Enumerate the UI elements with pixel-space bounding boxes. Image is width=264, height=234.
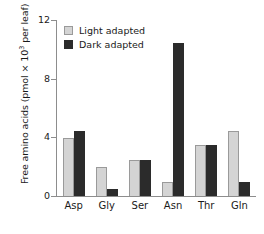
bar-chart: Free amino acids (pmol × 103 per leaf) 0… (0, 0, 264, 234)
x-axis-label-thr: Thr (191, 200, 221, 211)
y-axis-title: Free amino acids (pmol × 103 per leaf) (18, 4, 30, 184)
bar-asn-light (162, 182, 173, 196)
x-axis-label-gln: Gln (224, 200, 254, 211)
x-axis-label-gly: Gly (92, 200, 122, 211)
y-axis-title-prefix: Free amino acids (pmol × 10 (19, 50, 30, 184)
legend-swatch-light (64, 26, 73, 35)
bar-asn-dark (173, 43, 184, 196)
bar-asp-light (63, 138, 74, 196)
y-axis-tick-label: 4 (24, 131, 50, 142)
bar-gln-light (228, 131, 239, 196)
legend: Light adaptedDark adapted (64, 24, 145, 52)
bar-gly-dark (107, 189, 118, 196)
bar-gly-light (96, 167, 107, 196)
bar-gln-dark (239, 182, 250, 196)
y-axis-tick (51, 20, 56, 21)
x-axis-line (56, 196, 256, 197)
x-axis-label-asn: Asn (158, 200, 188, 211)
y-axis-tick-label: 8 (24, 73, 50, 84)
x-axis-label-asp: Asp (59, 200, 89, 211)
legend-label: Dark adapted (79, 39, 144, 50)
bar-asp-dark (74, 131, 85, 196)
y-axis-tick-label: 0 (24, 190, 50, 201)
bar-group (195, 20, 217, 196)
legend-swatch-dark (64, 40, 73, 49)
legend-label: Light adapted (79, 25, 145, 36)
legend-item: Dark adapted (64, 38, 145, 50)
y-axis-title-exponent: 3 (18, 46, 26, 50)
bar-ser-light (129, 160, 140, 196)
y-axis-tick (51, 137, 56, 138)
bar-group (162, 20, 184, 196)
bar-thr-dark (206, 145, 217, 196)
legend-item: Light adapted (64, 24, 145, 36)
x-axis-label-ser: Ser (125, 200, 155, 211)
y-axis-tick (51, 196, 56, 197)
bar-group (228, 20, 250, 196)
bar-ser-dark (140, 160, 151, 196)
x-axis-labels: AspGlySerAsnThrGln (57, 200, 256, 211)
bar-thr-light (195, 145, 206, 196)
y-axis-tick (51, 79, 56, 80)
y-axis-tick-label: 12 (24, 14, 50, 25)
